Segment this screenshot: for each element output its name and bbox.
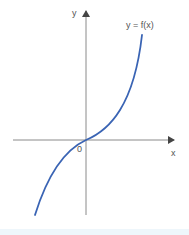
x-axis-label: x <box>171 148 176 158</box>
graph: y x 0 y = f(x) <box>0 0 189 229</box>
function-curve <box>35 35 142 215</box>
bottom-band <box>0 229 189 235</box>
curve-label: y = f(x) <box>126 20 154 30</box>
y-axis-label: y <box>72 8 77 18</box>
origin-label: 0 <box>77 144 82 154</box>
